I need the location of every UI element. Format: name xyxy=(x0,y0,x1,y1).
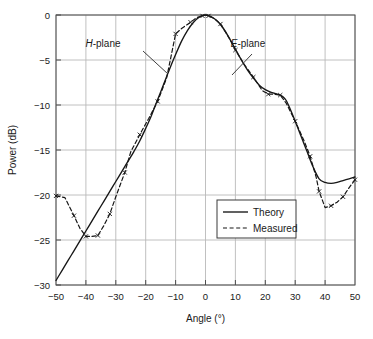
xtick-label-m20: −20 xyxy=(138,291,154,302)
antenna-pattern-chart: 0 −5 −10 −15 −20 −25 −30 −50 −40 −30 −20… xyxy=(0,0,373,339)
y-axis-title: Power (dB) xyxy=(7,125,18,175)
xtick-label-m10: −10 xyxy=(168,291,184,302)
xtick-label-20: 20 xyxy=(260,291,271,302)
x-tick-marks xyxy=(86,280,325,285)
y-tick-marks xyxy=(56,15,61,285)
chart-figure: 0 −5 −10 −15 −20 −25 −30 −50 −40 −30 −20… xyxy=(0,0,373,339)
ytick-label-m5: −5 xyxy=(39,55,50,66)
chart-legend: Theory Measured xyxy=(217,200,297,238)
y-tick-labels: 0 −5 −10 −15 −20 −25 −30 xyxy=(34,10,50,291)
ytick-label-m30: −30 xyxy=(34,280,50,291)
e-plane-rest: -plane xyxy=(237,38,265,49)
h-plane-label: H-plane xyxy=(85,38,120,49)
xtick-label-m30: −30 xyxy=(108,291,124,302)
xtick-label-0: 0 xyxy=(203,291,208,302)
h-plane-leader-line xyxy=(143,51,168,74)
x-tick-labels: −50 −40 −30 −20 −10 0 10 20 30 40 50 xyxy=(48,291,360,302)
legend-label-theory: Theory xyxy=(253,207,284,218)
measured-marker xyxy=(108,212,112,216)
xtick-label-10: 10 xyxy=(230,291,241,302)
ytick-label-m20: −20 xyxy=(34,190,50,201)
ytick-label-m25: −25 xyxy=(34,235,50,246)
legend-label-measured: Measured xyxy=(253,223,297,234)
ytick-label-0: 0 xyxy=(45,10,50,21)
xtick-label-50: 50 xyxy=(350,291,361,302)
measured-marker xyxy=(138,133,142,137)
xtick-label-30: 30 xyxy=(290,291,301,302)
ytick-label-m10: −10 xyxy=(34,100,50,111)
xtick-label-m40: −40 xyxy=(78,291,94,302)
h-plane-rest: -plane xyxy=(93,38,121,49)
x-axis-title: Angle (°) xyxy=(186,313,225,324)
grid-lines xyxy=(56,15,355,285)
ytick-label-m15: −15 xyxy=(34,145,50,156)
e-plane-label: E-plane xyxy=(231,38,266,49)
xtick-label-40: 40 xyxy=(320,291,331,302)
measured-marker xyxy=(72,214,76,218)
xtick-label-m50: −50 xyxy=(48,291,64,302)
annotation-h-plane: H-plane xyxy=(85,38,168,74)
